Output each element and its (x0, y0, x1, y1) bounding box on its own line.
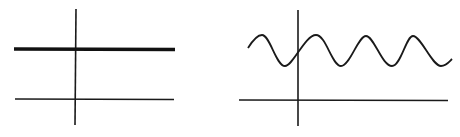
panel-constant-signal (14, 9, 175, 125)
constant-signal-line (14, 49, 175, 50)
horizontal-axis (15, 99, 174, 100)
vertical-axis (75, 9, 76, 125)
diagram-canvas (0, 0, 460, 137)
panel-sinusoidal-signal (239, 10, 452, 126)
horizontal-axis (239, 100, 448, 101)
sine-wave (248, 35, 452, 66)
